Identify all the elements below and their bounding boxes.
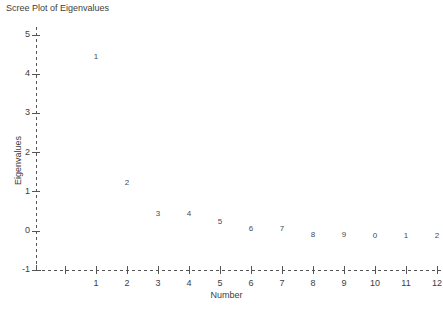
x-tick-label: 6 bbox=[241, 278, 261, 288]
x-tick-label: 3 bbox=[148, 278, 168, 288]
x-tick-label: 10 bbox=[365, 278, 385, 288]
data-point-marker: 2 bbox=[430, 231, 443, 240]
y-tick-label: 5 bbox=[6, 29, 30, 39]
x-tick-label: 8 bbox=[303, 278, 323, 288]
x-tick-label: 5 bbox=[210, 278, 230, 288]
data-point-marker: 9 bbox=[337, 230, 351, 239]
data-point-marker: 1 bbox=[399, 231, 413, 240]
x-tick-label: 7 bbox=[272, 278, 292, 288]
y-tick-label: 3 bbox=[6, 107, 30, 117]
x-tick-label: 2 bbox=[117, 278, 137, 288]
x-tick-label: 12 bbox=[427, 278, 443, 288]
data-point-marker: 3 bbox=[151, 209, 165, 218]
data-point-marker: 5 bbox=[213, 217, 227, 226]
y-tick-label: 0 bbox=[6, 225, 30, 235]
data-point-marker: 7 bbox=[275, 224, 289, 233]
y-tick-label: 1 bbox=[6, 186, 30, 196]
data-point-marker: 4 bbox=[182, 209, 196, 218]
data-point-marker: 2 bbox=[120, 178, 134, 187]
x-tick-label: 9 bbox=[334, 278, 354, 288]
scree-plot-figure: Scree Plot of Eigenvalues Eigenvalues Nu… bbox=[0, 0, 443, 310]
x-tick-label: 11 bbox=[396, 278, 416, 288]
data-point-marker: 0 bbox=[368, 231, 382, 240]
data-point-marker: 8 bbox=[306, 230, 320, 239]
x-tick-label: 1 bbox=[86, 278, 106, 288]
data-point-marker: 6 bbox=[244, 224, 258, 233]
y-tick-label: 4 bbox=[6, 68, 30, 78]
plot-axes bbox=[0, 0, 443, 310]
data-point-marker: 1 bbox=[89, 52, 103, 61]
x-tick-label: 4 bbox=[179, 278, 199, 288]
y-tick-label: 2 bbox=[6, 147, 30, 157]
y-tick-label: -1 bbox=[6, 264, 30, 274]
